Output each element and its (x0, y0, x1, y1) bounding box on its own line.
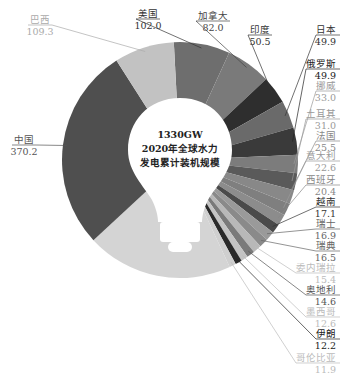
slice-label-value: 33.0 (315, 92, 336, 103)
slice-label-name: 印度 (250, 24, 270, 35)
slice-label-value: 50.5 (249, 36, 270, 47)
slice-label-value: 102.0 (134, 20, 161, 31)
center-text-line: 1330GW (157, 129, 203, 140)
slice-label-value: 370.2 (10, 146, 37, 157)
slice-label-value: 49.9 (315, 36, 336, 47)
hydropower-donut-chart: 1330GW2020年全球水力发电累计装机规模 美国102.0加拿大82.0印度… (0, 0, 359, 384)
slice-label-value: 82.0 (202, 22, 223, 33)
slice-label-value: 12.2 (315, 340, 336, 351)
slice-label-name: 挪威 (316, 80, 336, 91)
slice-label-name: 西班牙 (306, 174, 336, 185)
slice-label-name: 奥地利 (306, 284, 336, 295)
slice-label-name: 俄罗斯 (306, 58, 336, 69)
center-text-line: 发电累计装机规模 (139, 157, 220, 168)
center-text-line: 2020年全球水力 (142, 143, 218, 154)
slice-label-name: 土耳其 (306, 108, 336, 119)
slice-label-name: 法国 (316, 130, 336, 141)
slice-label-name: 瑞典 (316, 240, 336, 251)
slice-label-name: 委内瑞拉 (296, 262, 336, 273)
slice-label-name: 中国 (14, 134, 34, 145)
slice-label-name: 墨西哥 (306, 306, 336, 317)
slice-label-value: 11.9 (315, 364, 336, 375)
slice-label-name: 加拿大 (198, 10, 228, 21)
slice-label-name: 日本 (316, 24, 336, 35)
slice-label-name: 哥伦比亚 (296, 352, 336, 363)
slice-label-name: 巴西 (30, 14, 50, 25)
slice-label-value: 109.3 (26, 26, 53, 37)
slice-label-name: 瑞士 (316, 218, 336, 229)
slice-label-name: 意大利 (306, 150, 336, 161)
slice-label-name: 伊朗 (316, 328, 336, 339)
slice-label-value: 22.6 (315, 162, 336, 173)
slice-label-name: 美国 (138, 8, 158, 19)
slice-label-name: 越南 (316, 196, 336, 207)
